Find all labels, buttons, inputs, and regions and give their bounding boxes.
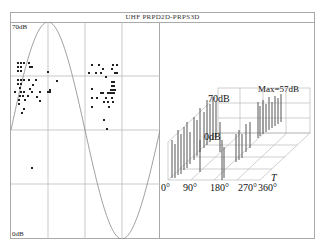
prpd-y-min-label: 0dB (12, 230, 24, 238)
prps-z-top-label: 70dB (208, 93, 230, 104)
prps-3d-panel: Max=57dB 70dB 0dB 0° 90° 180° 270° 360° … (160, 22, 315, 239)
prps-x-tick-0: 0° (161, 182, 170, 193)
prps-z-bottom-label: 0dB (204, 131, 221, 142)
prps-max-label: Max=57dB (258, 84, 299, 94)
prpd-2d-panel: 70dB 0dB (11, 22, 160, 239)
chart-frame: UHF PRPD2D-PRPS3D (10, 12, 315, 239)
prps-x-tick-360: 360° (258, 182, 277, 193)
prps-t-axis-label: T (271, 172, 277, 183)
prpd-plot (11, 22, 160, 239)
prpd-y-max-label: 70dB (12, 23, 27, 31)
prps-plot (160, 22, 315, 239)
prps-x-tick-270: 270° (238, 182, 257, 193)
prps-x-tick-180: 180° (210, 182, 229, 193)
prps-x-tick-90: 90° (183, 182, 197, 193)
